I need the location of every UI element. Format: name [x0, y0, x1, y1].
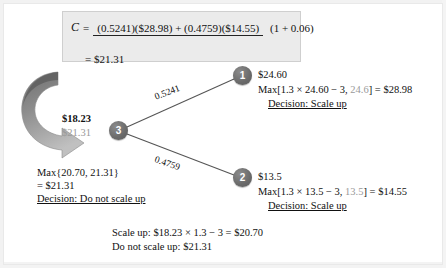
tree-node-1-label: 1 — [240, 70, 246, 81]
formula-box: C = (0.5241)($28.98) + (0.4759)($14.55) … — [62, 11, 301, 62]
node-3-alt-value: $21.31 — [62, 126, 91, 139]
node-1-max-head: Max[1.3 × 24.60 − 3, — [258, 84, 350, 95]
tree-node-2-label: 2 — [240, 172, 246, 183]
tree-node-1[interactable]: 1 — [233, 66, 252, 85]
formula-lhs: C — [71, 21, 79, 35]
node-2-max-gray: 13.5 — [345, 186, 363, 197]
node-2-max-head: Max[1.3 × 13.5 − 3, — [258, 186, 345, 197]
node-3-value: $18.23 — [62, 112, 91, 125]
summary-line-scale-up: Scale up: $18.23 × 1.3 − 3 = $20.70 — [112, 226, 263, 239]
tree-node-2[interactable]: 2 — [233, 168, 252, 187]
formula-result: = $21.31 — [85, 53, 124, 66]
branch-line-up — [127, 79, 234, 127]
node-1-decision: Decision: Scale up — [268, 97, 347, 110]
tree-node-3[interactable]: 3 — [109, 121, 128, 140]
node-2-max-tail: ] = $14.55 — [363, 186, 407, 197]
formula-main-row: C = (0.5241)($28.98) + (0.4759)($14.55) … — [71, 21, 318, 35]
node-1-max-expression: Max[1.3 × 24.60 − 3, 24.6] = $28.98 — [258, 83, 412, 96]
tree-node-3-label: 3 — [116, 125, 122, 136]
formula-numerator: (0.5241)($28.98) + (0.4759)($14.55) — [93, 22, 263, 36]
node-1-value: $24.60 — [258, 68, 287, 81]
node-1-max-tail: ] = $28.98 — [369, 84, 413, 95]
node-2-value: $13.5 — [258, 170, 282, 183]
summary-line-do-not-scale-up: Do not scale up: $21.31 — [112, 240, 212, 253]
node-2-max-expression: Max[1.3 × 13.5 − 3, 13.5] = $14.55 — [258, 185, 407, 198]
node-3-decision: Decision: Do not scale up — [37, 192, 145, 205]
formula-denominator: (1 + 0.06) — [266, 21, 318, 34]
formula-equals: = — [83, 22, 89, 35]
branch-line-down — [127, 134, 234, 175]
figure-canvas: C = (0.5241)($28.98) + (0.4759)($14.55) … — [0, 0, 446, 268]
node-3-result: = $21.31 — [37, 179, 74, 192]
node-2-decision: Decision: Scale up — [268, 199, 347, 212]
node-3-max-expression: Max{20.70, 21.31} — [37, 166, 119, 179]
formula-fraction: (0.5241)($28.98) + (0.4759)($14.55) (1 +… — [93, 22, 318, 35]
node-1-max-gray: 24.6 — [350, 84, 368, 95]
